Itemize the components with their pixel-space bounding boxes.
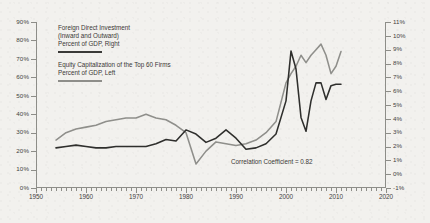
x-axis-minor-tick <box>151 188 152 191</box>
x-axis-minor-tick <box>356 188 357 191</box>
x-axis-minor-tick <box>261 188 262 191</box>
chart-container: 0%10%20%30%40%50%60%70%80%90% -1%0%1%2%3… <box>0 0 430 223</box>
x-axis-minor-tick <box>241 188 242 191</box>
legend-label-fdi-line1: Foreign Direct Investment <box>58 24 171 32</box>
y-axis-right-label: 10% <box>393 33 406 39</box>
x-axis-minor-tick <box>101 188 102 191</box>
x-axis-minor-tick <box>181 188 182 191</box>
x-axis-minor-tick <box>371 188 372 191</box>
y-axis-right-tick <box>386 36 391 37</box>
x-axis-minor-tick <box>51 188 52 191</box>
y-axis-right-tick <box>386 64 391 65</box>
x-axis-minor-tick <box>221 188 222 191</box>
x-axis-minor-tick <box>311 188 312 191</box>
x-axis-minor-tick <box>66 188 67 191</box>
x-axis-minor-tick <box>271 188 272 191</box>
legend-swatch-fdi <box>58 51 102 53</box>
y-axis-right-tick <box>386 91 391 92</box>
y-axis-right-label: 9% <box>393 46 402 52</box>
x-axis-minor-tick <box>361 188 362 191</box>
x-axis-minor-tick <box>326 188 327 191</box>
y-axis-right-label: 3% <box>393 129 402 135</box>
x-axis-minor-tick <box>331 188 332 191</box>
x-axis-minor-tick <box>166 188 167 191</box>
y-axis-left-label: 0% <box>20 185 29 191</box>
x-axis-minor-tick <box>111 188 112 191</box>
x-axis-label: 1970 <box>129 194 143 200</box>
x-axis-minor-tick <box>376 188 377 191</box>
x-axis-minor-tick <box>126 188 127 191</box>
x-axis-minor-tick <box>176 188 177 191</box>
x-axis-minor-tick <box>191 188 192 191</box>
y-axis-right-tick <box>386 174 391 175</box>
x-axis-label: 1960 <box>79 194 93 200</box>
x-axis-minor-tick <box>76 188 77 191</box>
y-axis-left-label: 60% <box>16 74 29 80</box>
x-axis-minor-tick <box>81 188 82 191</box>
x-axis-minor-tick <box>246 188 247 191</box>
x-axis-minor-tick <box>121 188 122 191</box>
legend-swatch-equity <box>58 80 102 82</box>
y-axis-left-label: 70% <box>16 56 29 62</box>
y-axis-right-tick <box>386 147 391 148</box>
x-axis-minor-tick <box>71 188 72 191</box>
x-axis-minor-tick <box>41 188 42 191</box>
y-axis-right-label: 0% <box>393 171 402 177</box>
x-axis-minor-tick <box>316 188 317 191</box>
chart-legend: Foreign Direct Investment (Inward and Ou… <box>58 24 171 90</box>
x-axis-minor-tick <box>196 188 197 191</box>
legend-label-fdi-line2: (Inward and Outward) <box>58 32 171 40</box>
y-axis-left-label: 10% <box>16 166 29 172</box>
x-axis-minor-tick <box>291 188 292 191</box>
y-axis-right-tick <box>386 22 391 23</box>
x-axis-minor-tick <box>201 188 202 191</box>
y-axis-right-tick <box>386 105 391 106</box>
x-axis-minor-tick <box>106 188 107 191</box>
y-axis-left-label: 90% <box>16 19 29 25</box>
x-axis-minor-tick <box>141 188 142 191</box>
x-axis-label: 2000 <box>279 194 293 200</box>
x-axis-minor-tick <box>321 188 322 191</box>
y-axis-left-label: 30% <box>16 129 29 135</box>
x-axis-minor-tick <box>46 188 47 191</box>
y-axis-right-tick <box>386 119 391 120</box>
x-axis-minor-tick <box>161 188 162 191</box>
x-axis-minor-tick <box>116 188 117 191</box>
x-axis-minor-tick <box>171 188 172 191</box>
x-axis-minor-tick <box>346 188 347 191</box>
x-axis-minor-tick <box>216 188 217 191</box>
x-axis-minor-tick <box>56 188 57 191</box>
y-axis-right-label: 11% <box>393 19 405 25</box>
y-axis-left-label: 80% <box>16 37 29 43</box>
x-axis-minor-tick <box>266 188 267 191</box>
x-axis-minor-tick <box>131 188 132 191</box>
x-axis-label: 2020 <box>379 194 393 200</box>
x-axis-minor-tick <box>306 188 307 191</box>
y-axis-left-label: 20% <box>16 148 29 154</box>
x-axis-minor-tick <box>211 188 212 191</box>
x-axis-minor-tick <box>341 188 342 191</box>
x-axis-minor-tick <box>206 188 207 191</box>
y-axis-right-tick <box>386 160 391 161</box>
x-axis-label: 2010 <box>329 194 343 200</box>
correlation-annotation: Correlation Coefficient = 0.82 <box>231 158 313 165</box>
x-axis-label: 1950 <box>29 194 43 200</box>
x-axis-minor-tick <box>301 188 302 191</box>
y-axis-left-label: 40% <box>16 111 29 117</box>
x-axis-minor-tick <box>296 188 297 191</box>
y-axis-left-label: 50% <box>16 93 29 99</box>
x-axis-minor-tick <box>351 188 352 191</box>
y-axis-right-tick <box>386 50 391 51</box>
x-axis-minor-tick <box>96 188 97 191</box>
y-axis-right-label: 7% <box>393 74 402 80</box>
x-axis-minor-tick <box>381 188 382 191</box>
y-axis-right-label: 2% <box>393 143 402 149</box>
x-axis-label: 1980 <box>179 194 193 200</box>
legend-label-equity-line1: Equity Capitalization of the Top 60 Firm… <box>58 61 171 69</box>
y-axis-right-label: 5% <box>393 102 402 108</box>
x-axis-minor-tick <box>251 188 252 191</box>
x-axis-minor-tick <box>276 188 277 191</box>
y-axis-right-label: 8% <box>393 60 402 66</box>
y-axis-right-label: 1% <box>393 157 402 163</box>
y-axis-right-label: -1% <box>393 185 404 191</box>
